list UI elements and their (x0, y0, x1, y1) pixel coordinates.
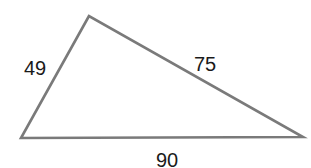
side-label-left: 49 (24, 57, 46, 79)
side-label-bottom: 90 (156, 149, 178, 168)
triangle-shape (21, 16, 303, 138)
triangle-diagram: 49 75 90 (0, 0, 311, 168)
triangle-canvas: 49 75 90 (0, 0, 311, 168)
side-label-right: 75 (194, 53, 216, 75)
